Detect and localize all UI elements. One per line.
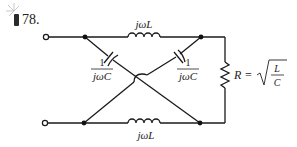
resistor-label-den: C bbox=[274, 77, 281, 88]
resistor-label-num: L bbox=[273, 63, 280, 74]
left-cap-numerator: 1 bbox=[100, 57, 105, 68]
resistor-label-lhs: R = bbox=[233, 68, 252, 82]
right-cap-denominator: jωC bbox=[177, 70, 198, 82]
top-inductor-label: jωL bbox=[134, 18, 153, 30]
circuit-diagram: jωL jωL 1 jωC 1 jωC R = L C bbox=[0, 0, 297, 147]
left-cap-denominator: jωC bbox=[91, 70, 112, 82]
resistor bbox=[221, 62, 229, 88]
node-top-left bbox=[83, 35, 88, 40]
top-terminal bbox=[43, 34, 48, 39]
node-bottom-left bbox=[82, 121, 87, 126]
right-cap-numerator: 1 bbox=[186, 57, 191, 68]
problem-78-figure: 78. bbox=[0, 0, 297, 147]
node-top-right bbox=[199, 35, 204, 40]
bottom-inductor bbox=[128, 119, 160, 123]
bottom-inductor-label: jωL bbox=[136, 129, 155, 141]
bottom-terminal bbox=[42, 120, 47, 125]
node-bottom-right bbox=[198, 121, 203, 126]
top-inductor bbox=[128, 33, 160, 37]
sqrt-sign bbox=[257, 60, 287, 85]
crossing-hop bbox=[134, 74, 147, 82]
